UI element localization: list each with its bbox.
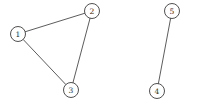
graph-node-2: 2 <box>85 4 100 19</box>
graph-node-1: 1 <box>11 27 26 42</box>
graph-svg: 12345 <box>0 0 198 104</box>
edge-layer <box>23 13 170 84</box>
graph-node-4: 4 <box>150 84 165 99</box>
graph-node-3: 3 <box>64 83 79 98</box>
graph-diagram-canvas: 12345 <box>0 0 198 104</box>
graph-node-label-2: 2 <box>90 7 95 16</box>
graph-node-label-4: 4 <box>155 87 160 96</box>
graph-edge-2-3 <box>73 18 90 83</box>
graph-node-5: 5 <box>165 4 180 19</box>
node-layer: 12345 <box>11 4 180 99</box>
graph-edge-4-5 <box>158 18 170 83</box>
graph-edge-1-3 <box>23 39 66 84</box>
graph-node-label-1: 1 <box>16 30 21 39</box>
graph-node-label-3: 3 <box>69 86 74 95</box>
graph-edge-1-2 <box>25 13 85 32</box>
graph-node-label-5: 5 <box>170 7 175 16</box>
